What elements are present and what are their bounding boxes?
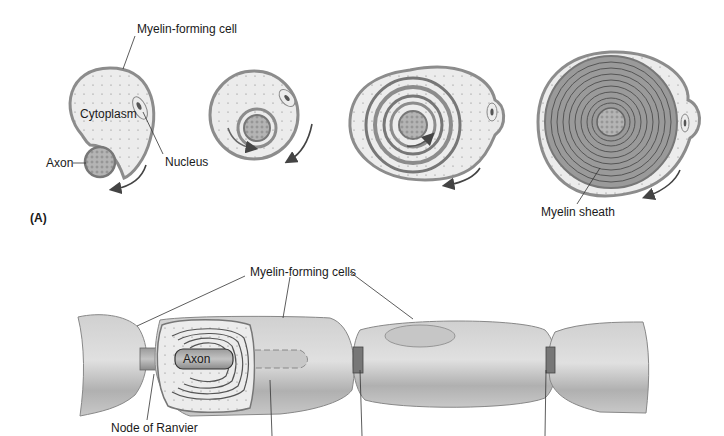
label-axon-b: Axon [183,353,210,365]
label-axon: Axon [46,157,73,169]
label-myelin-sheath: Myelin sheath [541,206,615,218]
myelination-diagram [0,0,724,436]
stage-3-cell [350,67,504,185]
label-myelin-forming-cells: Myelin-forming cells [250,266,356,278]
label-myelin-forming-cell: Myelin-forming cell [137,23,237,35]
panel-label-a: (A) [30,212,47,224]
label-node-of-ranvier: Node of Ranvier [111,422,198,434]
label-nucleus: Nucleus [165,156,208,168]
myelinated-axon [78,315,649,416]
stage-1-cell [70,68,154,189]
stage-4-cell [538,52,700,196]
stage-2-cell [210,71,312,160]
label-cytoplasm: Cytoplasm [80,108,137,120]
